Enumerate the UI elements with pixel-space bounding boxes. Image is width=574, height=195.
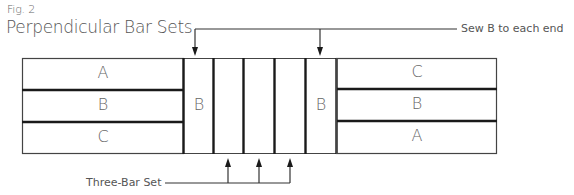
arrow-up-icon	[287, 158, 293, 167]
three-bar-set-arrows	[165, 158, 293, 183]
arrow-up-icon	[225, 158, 231, 167]
right-row-label: A	[337, 126, 497, 145]
arrow-down-icon	[192, 47, 198, 56]
right-row-label: B	[337, 94, 497, 113]
left-row-label: C	[22, 127, 184, 146]
left-end-strip-label: B	[184, 95, 214, 114]
three-bar-set-note: Three-Bar Set	[86, 176, 161, 189]
left-row-label: A	[22, 63, 184, 82]
left-row-label: B	[22, 95, 184, 114]
arrow-down-icon	[317, 47, 323, 56]
right-row-label: C	[337, 62, 497, 81]
arrow-up-icon	[256, 158, 262, 167]
sew-b-note: Sew B to each end	[461, 22, 564, 35]
right-end-strip-label: B	[306, 95, 336, 114]
sew-b-arrows	[192, 29, 457, 56]
